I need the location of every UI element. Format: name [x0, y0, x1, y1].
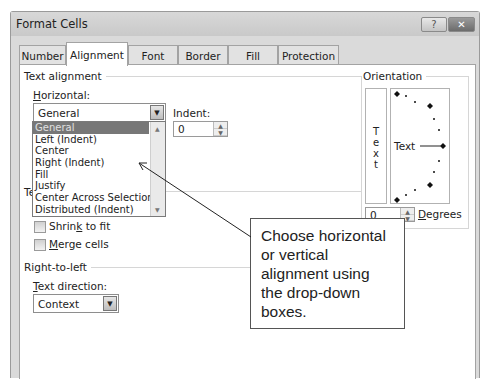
list-scrollbar[interactable]: ▲ ▼: [150, 122, 165, 216]
dropdown-value: General: [38, 107, 79, 119]
label-text: orizontal:: [41, 89, 90, 101]
option-general[interactable]: General: [33, 122, 149, 134]
tab-alignment[interactable]: Alignment: [66, 42, 128, 66]
horizontal-label: Horizontal:: [33, 89, 94, 101]
horizontal-options-list[interactable]: General Left (Indent) Center Right (Inde…: [32, 121, 166, 217]
text-direction-label: Text direction:: [33, 280, 111, 292]
label-text: to fit: [82, 220, 110, 232]
scroll-down-icon[interactable]: ▼: [155, 206, 160, 213]
shrink-to-fit-checkbox[interactable]: [34, 221, 46, 233]
help-button[interactable]: ?: [421, 17, 447, 32]
dropdown-value: Context: [38, 298, 79, 310]
tab-label: Font: [142, 50, 165, 62]
text-alignment-group-label: Text alignment: [24, 70, 106, 82]
orientation-dial[interactable]: Text: [390, 88, 450, 204]
option-left-indent[interactable]: Left (Indent): [33, 134, 165, 146]
vertical-letter: x: [366, 149, 386, 159]
indent-label: Indent:: [173, 107, 214, 119]
option-center-across-selection[interactable]: Center Across Selection: [33, 192, 165, 204]
tab-label: Number: [21, 50, 63, 62]
spin-up-icon[interactable]: ▲: [214, 122, 227, 129]
label-text: Shrin: [49, 220, 76, 232]
close-icon: ✕: [457, 19, 465, 30]
option-center[interactable]: Center: [33, 145, 165, 157]
title-bar: Format Cells ? ✕: [11, 12, 479, 36]
tab-fill[interactable]: Fill: [228, 45, 278, 65]
indent-spin-buttons[interactable]: ▲▼: [213, 122, 227, 136]
right-to-left-divider: [88, 267, 250, 268]
vertical-text-toggle[interactable]: T e x t: [365, 88, 387, 204]
help-icon: ?: [431, 19, 436, 30]
tab-label: Protection: [282, 50, 335, 62]
vertical-letter: T: [366, 127, 386, 137]
scroll-up-icon[interactable]: ▲: [155, 125, 160, 132]
label-text: egrees: [426, 208, 462, 220]
chevron-down-icon[interactable]: ▼: [150, 105, 164, 120]
tab-label: Fill: [246, 50, 260, 62]
dial-text: Text: [394, 140, 415, 152]
vertical-letter: t: [366, 160, 386, 170]
tab-border[interactable]: Border: [178, 45, 228, 65]
close-button[interactable]: ✕: [448, 17, 475, 32]
access-key: D: [418, 208, 426, 220]
spin-down-icon[interactable]: ▼: [214, 129, 227, 136]
merge-cells-checkbox[interactable]: [34, 239, 46, 251]
access-key: M: [49, 238, 58, 250]
right-to-left-group-label: Right-to-left: [24, 261, 91, 273]
degrees-label: Degrees: [418, 208, 466, 220]
dialog-title: Format Cells: [16, 17, 88, 31]
tab-number[interactable]: Number: [19, 45, 66, 65]
option-justify[interactable]: Justify: [33, 180, 165, 192]
text-direction-dropdown[interactable]: Context ▼: [33, 294, 119, 313]
annotation-callout: Choose horizontal or vertical alignment …: [250, 218, 405, 329]
option-fill[interactable]: Fill: [33, 169, 165, 181]
option-right-indent[interactable]: Right (Indent): [33, 157, 165, 169]
text-control-divider: [166, 191, 365, 192]
shrink-to-fit-label: Shrink to fit: [49, 220, 110, 232]
label-text: ext direction:: [38, 280, 108, 292]
orientation-group-label: Orientation: [362, 70, 426, 82]
tab-label: Alignment: [70, 49, 124, 61]
indent-value: 0: [178, 123, 185, 135]
horizontal-dropdown[interactable]: General ▼: [33, 103, 166, 122]
tab-protection[interactable]: Protection: [278, 45, 339, 65]
vertical-letter: e: [366, 138, 386, 148]
chevron-down-icon[interactable]: ▼: [103, 296, 117, 311]
access-key: H: [33, 89, 41, 101]
label-text: erge cells: [58, 238, 109, 250]
option-distributed-indent[interactable]: Distributed (Indent): [33, 204, 165, 216]
tab-label: Border: [185, 50, 220, 62]
merge-cells-label: Merge cells: [49, 238, 109, 250]
tab-font[interactable]: Font: [128, 45, 178, 65]
indent-spinner[interactable]: 0 ▲▼: [173, 121, 228, 137]
text-alignment-divider: [95, 76, 365, 77]
